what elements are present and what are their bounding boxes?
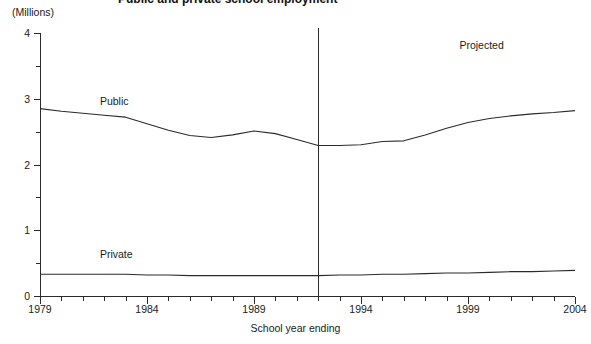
y-axis-tick-label: 0 — [24, 290, 30, 302]
private-series-label: Private — [100, 248, 133, 260]
y-axis-tick-label: 4 — [24, 27, 30, 39]
series-line-private — [40, 270, 575, 275]
axes-layer — [34, 33, 576, 304]
x-axis-tick-label: 1999 — [456, 303, 479, 315]
x-axis-tick-label: 1989 — [242, 303, 265, 315]
chart-figure: Public and private school employment (Mi… — [0, 0, 591, 344]
y-axis-tick-label: 2 — [24, 159, 30, 171]
y-axis-tick-label: 3 — [24, 93, 30, 105]
projected-region-label: Projected — [459, 39, 503, 51]
x-axis-tick-label: 2004 — [563, 303, 586, 315]
x-axis-tick-label: 1979 — [28, 303, 51, 315]
x-axis-tick-label: 1994 — [349, 303, 372, 315]
x-axis-title: School year ending — [0, 322, 591, 334]
plot-area — [0, 0, 591, 344]
public-series-label: Public — [100, 95, 129, 107]
x-axis-tick-label: 1984 — [135, 303, 158, 315]
y-axis-tick-label: 1 — [24, 224, 30, 236]
series-line-public — [40, 109, 575, 146]
